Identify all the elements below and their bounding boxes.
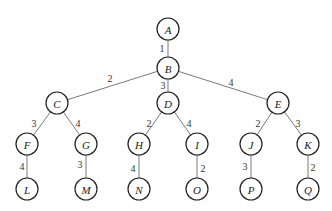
edge-weight-A-B: 1: [160, 43, 165, 54]
tree-diagram: 1234342423434232 ABCDEFGHIJKLMNOPQ: [0, 0, 332, 211]
node-H: H: [128, 133, 150, 155]
node-label: P: [247, 184, 255, 196]
edge-B-C: [57, 68, 168, 103]
edge-weight-G-M: 3: [78, 159, 83, 170]
node-K: K: [297, 133, 319, 155]
node-label: G: [82, 139, 90, 151]
edge-weight-B-C: 2: [108, 73, 113, 84]
node-label: O: [193, 184, 201, 196]
node-C: C: [46, 92, 68, 114]
node-label: H: [134, 139, 144, 151]
node-label: L: [23, 184, 30, 196]
node-L: L: [16, 178, 38, 200]
node-M: M: [75, 178, 97, 200]
node-J: J: [240, 133, 262, 155]
node-F: F: [16, 133, 38, 155]
node-label: C: [53, 98, 61, 110]
node-label: M: [80, 184, 91, 196]
node-label: F: [23, 139, 31, 151]
node-label: A: [164, 24, 172, 36]
edge-weight-D-H: 2: [147, 118, 152, 129]
node-P: P: [240, 178, 262, 200]
node-label: K: [303, 139, 312, 151]
node-label: B: [165, 63, 172, 75]
edge-weight-H-N: 4: [131, 163, 136, 174]
node-N: N: [128, 178, 150, 200]
edge-weight-F-L: 4: [20, 161, 25, 172]
edge-weight-C-G: 4: [76, 118, 81, 129]
node-B: B: [157, 57, 179, 79]
node-O: O: [186, 178, 208, 200]
node-E: E: [267, 92, 289, 114]
edge-weight-B-D: 3: [161, 80, 166, 91]
node-Q: Q: [297, 178, 319, 200]
edge-weight-E-K: 3: [296, 118, 301, 129]
node-label: N: [134, 184, 143, 196]
edge-weight-K-Q: 2: [311, 162, 316, 173]
node-G: G: [75, 133, 97, 155]
node-label: Q: [304, 184, 312, 196]
node-label: D: [163, 98, 172, 110]
node-label: E: [274, 98, 282, 110]
edge-weight-B-E: 4: [229, 77, 234, 88]
edge-weight-I-O: 2: [201, 163, 206, 174]
edge-B-E: [168, 68, 278, 103]
node-A: A: [157, 18, 179, 40]
edge-weight-D-I: 4: [187, 118, 192, 129]
edge-weight-J-P: 3: [243, 161, 248, 172]
edge-weight-C-F: 3: [32, 118, 37, 129]
edge-weight-E-J: 2: [256, 118, 261, 129]
node-I: I: [186, 133, 208, 155]
node-D: D: [157, 92, 179, 114]
